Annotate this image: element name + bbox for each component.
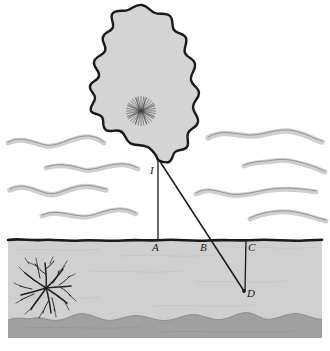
label-C: C [248,242,255,253]
label-B: B [200,242,207,253]
ground-surface-line [8,239,322,240]
label-I: I [150,165,154,176]
diagram-canvas [0,0,330,351]
point-D-marker [242,289,246,293]
label-A: A [152,242,159,253]
label-D: D [247,288,255,299]
lightning-ground-strike-figure: I A B C D [0,0,330,351]
